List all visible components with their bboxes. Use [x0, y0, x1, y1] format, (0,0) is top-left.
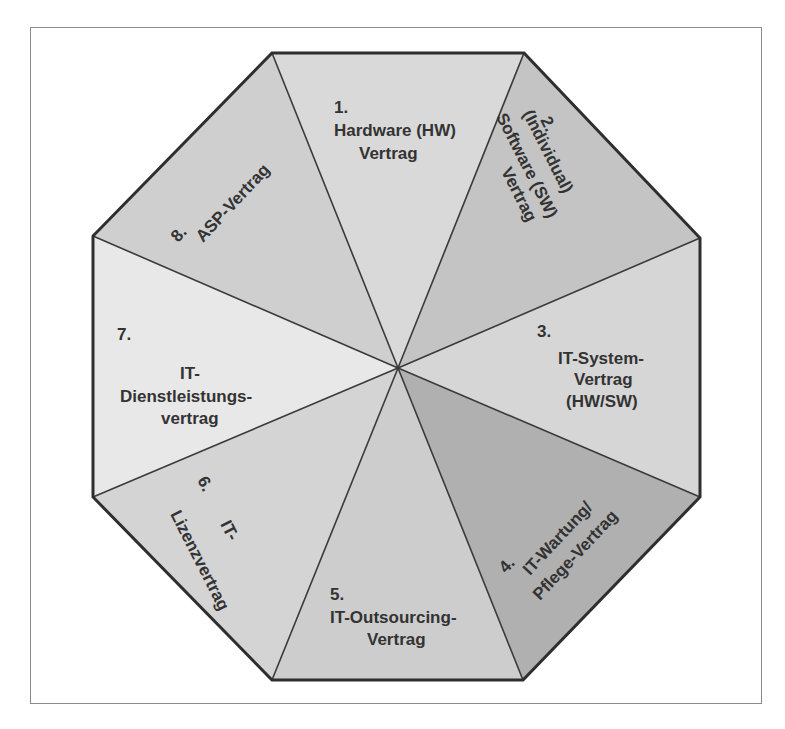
svg-text:IT-Outsourcing-: IT-Outsourcing- — [330, 608, 457, 627]
svg-text:5.: 5. — [330, 585, 344, 604]
svg-text:(HW/SW): (HW/SW) — [566, 392, 638, 411]
svg-text:3.: 3. — [537, 322, 551, 341]
svg-text:Vertrag: Vertrag — [367, 630, 426, 649]
svg-text:IT-: IT- — [180, 364, 200, 383]
contract-types-octagon: 1. Hardware (HW) Vertrag 2. (Individual)… — [0, 0, 785, 729]
svg-text:vertrag: vertrag — [161, 409, 219, 428]
svg-text:Dienstleistungs-: Dienstleistungs- — [120, 387, 252, 406]
svg-text:IT-System-: IT-System- — [558, 349, 644, 368]
svg-text:Hardware (HW): Hardware (HW) — [334, 121, 456, 140]
svg-text:Vertrag: Vertrag — [359, 144, 418, 163]
svg-text:Vertrag: Vertrag — [574, 370, 633, 389]
svg-text:7.: 7. — [117, 325, 131, 344]
svg-text:1.: 1. — [334, 98, 348, 117]
